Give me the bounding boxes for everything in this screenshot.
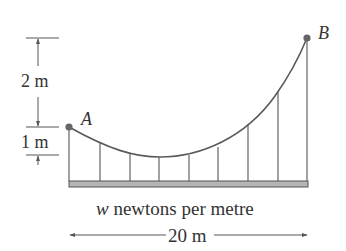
cable bbox=[69, 38, 307, 157]
load-symbol: w bbox=[96, 198, 109, 219]
span-label: 20 m bbox=[168, 226, 207, 245]
point-a-marker bbox=[65, 123, 72, 130]
dim-label-2m: 2 m bbox=[21, 72, 49, 90]
dim-label-1m: 1 m bbox=[21, 133, 49, 151]
point-a-label: A bbox=[81, 110, 92, 128]
suspension-cable-diagram: A B 2 m 1 m w newtons per metre 20 m bbox=[0, 0, 346, 251]
point-b-label: B bbox=[318, 24, 329, 42]
point-b-marker bbox=[303, 34, 310, 41]
deck bbox=[69, 181, 308, 187]
load-text: newtons per metre bbox=[109, 198, 254, 219]
hangers bbox=[69, 38, 307, 181]
load-label: w newtons per metre bbox=[96, 199, 254, 218]
